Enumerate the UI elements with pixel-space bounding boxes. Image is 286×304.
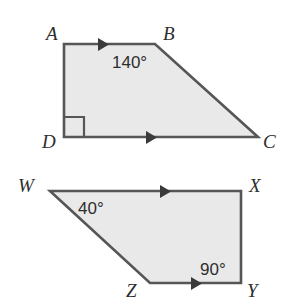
vertex-label-a: A [44,23,58,44]
vertex-label-c: C [263,131,276,152]
vertex-label-x: X [248,175,262,196]
vertex-label-w: W [18,175,36,196]
vertex-label-b: B [163,23,175,44]
trapezoid-abcd: A B C D 140° [41,23,276,152]
geometry-diagram: A B C D 140° W X Y Z 40° 90° [0,0,286,304]
trapezoid-wxyz: W X Y Z 40° 90° [18,175,262,301]
vertex-label-d: D [41,131,56,152]
angle-label-b: 140° [112,53,147,72]
angle-label-w: 40° [78,199,104,218]
geometry-canvas: A B C D 140° W X Y Z 40° 90° [0,0,286,304]
vertex-label-z: Z [126,280,137,301]
vertex-label-y: Y [247,280,260,301]
trapezoid-abcd-outline [64,44,258,137]
angle-label-y: 90° [200,260,226,279]
